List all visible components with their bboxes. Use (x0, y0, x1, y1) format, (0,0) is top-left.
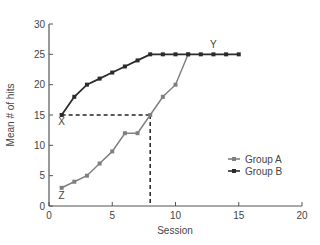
x-tick-label: 10 (170, 210, 182, 221)
data-point (148, 113, 152, 117)
series-line (62, 54, 188, 187)
annotations: XYZ (58, 39, 217, 200)
y-tick-label: 25 (34, 49, 46, 60)
data-point (72, 180, 76, 184)
data-point (85, 174, 89, 178)
data-point (224, 52, 228, 56)
y-tick-label: 10 (34, 140, 46, 151)
axes: 05101520253005101520 (34, 19, 308, 222)
y-tick-label: 30 (34, 19, 46, 30)
x-tick-label: 15 (233, 210, 245, 221)
y-tick-label: 5 (39, 170, 45, 181)
data-point (136, 58, 140, 62)
data-point (110, 149, 114, 153)
y-tick-label: 20 (34, 79, 46, 90)
x-tick-label: 20 (296, 210, 308, 221)
reference-lines (62, 115, 151, 206)
legend-item-group-a: Group A (228, 154, 282, 165)
annotation-z: Z (59, 190, 65, 201)
data-point (237, 52, 241, 56)
data-point (123, 64, 127, 68)
data-point (211, 52, 215, 56)
data-point (98, 77, 102, 81)
series-group-b (60, 52, 241, 117)
data-point (85, 83, 89, 87)
x-tick-label: 5 (109, 210, 115, 221)
annotation-x: X (58, 116, 65, 127)
series-group-a (60, 52, 191, 189)
annotation-y: Y (210, 39, 217, 50)
data-point (161, 52, 165, 56)
data-point (110, 71, 114, 75)
legend: Group AGroup B (228, 154, 283, 177)
data-point (72, 95, 76, 99)
data-point (123, 131, 127, 135)
data-point (136, 131, 140, 135)
data-series (60, 52, 241, 189)
line-chart: 05101520253005101520 XYZ Group AGroup B … (0, 0, 320, 245)
data-point (161, 95, 165, 99)
y-axis-label: Mean # of hits (5, 84, 16, 147)
x-axis-label: Session (157, 225, 193, 236)
data-point (148, 52, 152, 56)
y-tick-label: 0 (39, 201, 45, 212)
legend-label: Group A (245, 154, 282, 165)
y-tick-label: 15 (34, 110, 46, 121)
legend-marker (232, 157, 236, 161)
data-point (174, 83, 178, 87)
legend-marker (232, 169, 236, 173)
data-point (98, 162, 102, 166)
x-tick-label: 0 (46, 210, 52, 221)
data-point (199, 52, 203, 56)
legend-item-group-b: Group B (228, 166, 283, 177)
legend-label: Group B (245, 166, 283, 177)
data-point (174, 52, 178, 56)
data-point (186, 52, 190, 56)
